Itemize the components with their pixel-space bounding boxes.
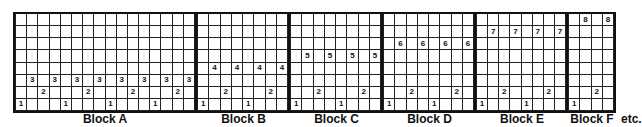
grid-cell [302, 86, 313, 98]
grid-cell [83, 14, 94, 26]
grid-cell [231, 26, 242, 38]
grid-cell [462, 98, 473, 110]
grid-cell: 2 [172, 86, 183, 98]
grid-cell [384, 74, 395, 86]
grid-cell: 1 [60, 98, 71, 110]
grid-cell [521, 26, 532, 38]
grid-cell [105, 50, 116, 62]
grid-cell: 1 [291, 98, 302, 110]
grid-cell [83, 38, 94, 50]
grid-cell [265, 62, 276, 74]
grid-cell [384, 86, 395, 98]
grid-cell: 8 [580, 14, 591, 26]
grid-cell [49, 86, 60, 98]
grid-cell [462, 50, 473, 62]
grid-cell [451, 14, 462, 26]
grid-cell [313, 62, 324, 74]
grid-cell [161, 98, 172, 110]
grid-cell [510, 74, 521, 86]
grid-cell [105, 14, 116, 26]
grid-cell [254, 38, 265, 50]
grid-cell [231, 86, 242, 98]
grid-cell: 8 [602, 14, 613, 26]
grid-cell [71, 26, 82, 38]
block-e: 77772211 [476, 13, 568, 111]
grid-cell: 6 [395, 38, 406, 50]
grid-cell [499, 38, 510, 50]
grid-cell [231, 14, 242, 26]
grid-cell [139, 50, 150, 62]
grid-cell: 2 [83, 86, 94, 98]
grid-cell [369, 98, 380, 110]
grid-cell [220, 26, 231, 38]
grid-cell [462, 14, 473, 26]
grid-cell [358, 98, 369, 110]
grid-cell [532, 98, 543, 110]
grid-cell [254, 86, 265, 98]
grid-cell [49, 14, 60, 26]
grid-cell [477, 50, 488, 62]
grid-cell [499, 74, 510, 86]
grid-cell [276, 26, 287, 38]
grid-cell: 6 [440, 38, 451, 50]
grid-cell [94, 86, 105, 98]
grid-cell [198, 74, 209, 86]
grid-cell [429, 26, 440, 38]
grid-cell [38, 14, 49, 26]
grid-cell [220, 98, 231, 110]
grid-cell [276, 14, 287, 26]
grid-cell [488, 62, 499, 74]
grid-cell [139, 38, 150, 50]
grid-cell [183, 86, 194, 98]
grid-cell [60, 26, 71, 38]
grid-cell: 7 [488, 26, 499, 38]
grid-cell [451, 74, 462, 86]
grid-cell: 7 [510, 26, 521, 38]
grid-cell [591, 26, 602, 38]
grid-cell [38, 62, 49, 74]
grid-cell [384, 62, 395, 74]
grid-cell [49, 26, 60, 38]
grid-cell [291, 26, 302, 38]
grid-cell [543, 14, 554, 26]
grid-cell [406, 14, 417, 26]
grid-cell [172, 26, 183, 38]
grid-cell [16, 74, 27, 86]
grid-cell [83, 74, 94, 86]
grid-cell [139, 26, 150, 38]
grid-cell [38, 50, 49, 62]
grid-cell [580, 74, 591, 86]
grid-cell [105, 74, 116, 86]
grid-cell [347, 38, 358, 50]
block-label: Block B [197, 112, 290, 126]
grid-cell [406, 62, 417, 74]
grid-cell: 3 [27, 74, 38, 86]
grid-cell [395, 50, 406, 62]
grid-cell [302, 26, 313, 38]
grid-cell [243, 14, 254, 26]
grid-cell [554, 14, 565, 26]
grid-cell [451, 62, 462, 74]
grid-cell [406, 38, 417, 50]
grid-cell [139, 98, 150, 110]
grid-cell [150, 50, 161, 62]
grid-cell [183, 38, 194, 50]
grid-cell [313, 98, 324, 110]
grid-cell [231, 50, 242, 62]
grid-cell [429, 38, 440, 50]
grid-cell [499, 98, 510, 110]
grid-cell [429, 74, 440, 86]
grid-cell [543, 74, 554, 86]
grid-cell [521, 50, 532, 62]
block-label: Block F [568, 112, 616, 126]
grid-cell [38, 74, 49, 86]
grid-cell [183, 50, 194, 62]
grid-cell [231, 98, 242, 110]
grid-cell [384, 14, 395, 26]
grid-cell [395, 26, 406, 38]
grid-cell [16, 86, 27, 98]
grid-cell [105, 38, 116, 50]
grid-cell [313, 26, 324, 38]
grid-cell: 3 [49, 74, 60, 86]
grid-cell: 1 [198, 98, 209, 110]
